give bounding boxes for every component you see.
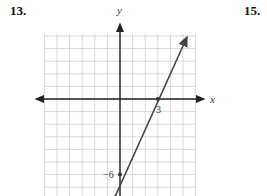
graph: x y 3 −6	[0, 0, 267, 196]
x-axis-label: x	[209, 93, 215, 105]
label-neg6: −6	[103, 169, 114, 180]
x-intercept-point	[156, 97, 160, 101]
label-3: 3	[156, 104, 161, 115]
y-axis-label: y	[116, 4, 122, 16]
data-line	[116, 37, 187, 195]
y-intercept-point	[118, 173, 122, 177]
